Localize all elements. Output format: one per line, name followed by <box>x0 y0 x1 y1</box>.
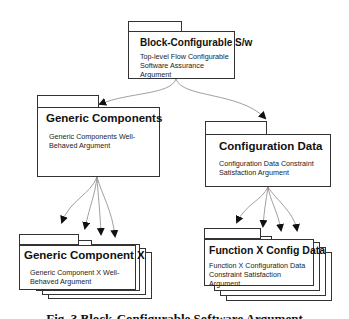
package-tab <box>204 228 261 239</box>
node-function-x-config-data[interactable]: Function X Config Data Function X Config… <box>204 239 314 286</box>
node-description: Top-level Flow Configurable Software Ass… <box>140 52 232 79</box>
node-title: Function X Config Data <box>209 244 325 256</box>
node-block-configurable[interactable]: Block-Configurable S/w Top-level Flow Co… <box>128 31 235 79</box>
package-tab <box>205 121 267 135</box>
node-description: Configuration Data Constraint Satisfacti… <box>219 159 329 177</box>
diagram-canvas: Block-Configurable S/w Top-level Flow Co… <box>0 0 349 319</box>
node-title: Block-Configurable S/w <box>140 37 252 48</box>
node-description: Function X Configuration Data Constraint… <box>209 261 313 288</box>
node-generic-component-x[interactable]: Generic Component X Generic Component X … <box>19 245 136 290</box>
package-tab <box>19 234 79 245</box>
node-description: Generic Components Well-Behaved Argument <box>49 132 139 150</box>
node-generic-components[interactable]: Generic Components Generic Components We… <box>37 107 160 177</box>
node-title: Configuration Data <box>219 140 323 152</box>
node-description: Generic Component X Well-Behaved Argumen… <box>30 268 134 286</box>
node-configuration-data[interactable]: Configuration Data Configuration Data Co… <box>205 134 331 187</box>
node-title: Generic Component X <box>24 249 145 261</box>
figure-caption: Fig. 3 Block-Configurable Software Argum… <box>0 309 349 319</box>
node-title: Generic Components <box>46 112 162 124</box>
